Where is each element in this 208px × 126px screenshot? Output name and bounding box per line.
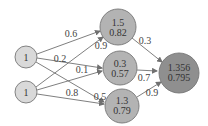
weight-i1-h3: 0.5 (94, 91, 107, 102)
edge-h2-o (137, 70, 157, 71)
hidden-node-1-out: 0.82 (109, 27, 127, 38)
input-node-1-label: 1 (24, 52, 29, 63)
edge-i1-h2 (37, 58, 102, 68)
input-node-1: 1 (15, 46, 37, 68)
edge-i2-h1 (36, 37, 103, 87)
hidden-node-3-out: 0.79 (113, 105, 131, 116)
input-node-2-label: 1 (24, 87, 29, 98)
weight-i1-h2: 0.2 (54, 53, 67, 64)
neural-network-diagram: 0.6 0.2 0.5 0.9 0.1 0.8 0.3 0.7 0.9 1 1 … (0, 0, 208, 126)
weight-i2-h3: 0.8 (66, 87, 79, 98)
weight-h1-o: 0.3 (139, 35, 152, 46)
output-node: 1.356 0.795 (159, 53, 199, 93)
input-node-2: 1 (15, 81, 37, 103)
weight-i1-h1: 0.6 (65, 28, 78, 39)
hidden-node-1: 1.5 0.82 (100, 9, 136, 45)
weight-i2-h1: 0.9 (95, 40, 108, 51)
hidden-node-2-out: 0.57 (111, 68, 129, 79)
weight-i2-h2: 0.1 (76, 64, 89, 75)
hidden-node-2: 0.3 0.57 (103, 51, 137, 85)
weight-h3-o: 0.9 (146, 87, 159, 98)
weight-h2-o: 0.7 (138, 72, 151, 83)
hidden-node-3: 1.3 0.79 (105, 89, 139, 123)
output-node-out: 0.795 (168, 72, 191, 83)
